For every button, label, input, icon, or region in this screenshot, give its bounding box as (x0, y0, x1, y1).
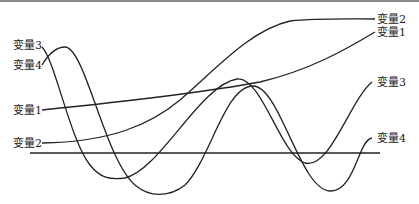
label-left-var3: 变量3 (13, 38, 42, 52)
curve-var2 (42, 19, 375, 143)
curve-var3 (42, 47, 372, 179)
curve-var1 (42, 32, 375, 110)
label-right-var2: 变量2 (377, 12, 406, 26)
label-left-var2: 变量2 (13, 136, 42, 150)
label-left-var4: 变量4 (13, 58, 42, 72)
variables-diagram: 变量3 变量4 变量1 变量2 变量2 变量1 变量3 变量4 (0, 0, 419, 204)
curve-var4 (42, 47, 372, 194)
label-right-var3: 变量3 (377, 75, 406, 89)
label-left-var1: 变量1 (13, 103, 42, 117)
label-right-var4: 变量4 (377, 131, 406, 145)
label-right-var1: 变量1 (377, 25, 406, 39)
